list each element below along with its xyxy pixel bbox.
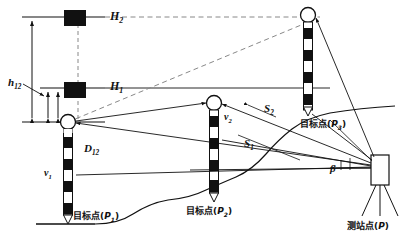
reference-level-lines: [22, 17, 105, 122]
label-v2: v2: [224, 112, 232, 125]
label-beta: β: [330, 163, 336, 174]
target-blocks: [64, 10, 86, 98]
label-H1: H1: [110, 80, 123, 95]
caption-station-point: 测站点(P): [347, 222, 389, 231]
dashed-construction-lines: [68, 17, 330, 122]
label-v1: v1: [44, 168, 52, 181]
caption-leaders: [238, 105, 372, 161]
target-pole-2: [207, 96, 222, 203]
dimension-arrows: [23, 21, 58, 118]
target-pole-3: [301, 8, 316, 117]
caption-target-point-1: 目标点(P1): [73, 212, 119, 223]
figure-canvas: h12 H1 H2 v1 v2 D12 S1 S2 β 目标点(P1) 目标点(…: [0, 0, 420, 248]
label-H2: H2: [110, 10, 123, 25]
label-D12: D12: [84, 143, 99, 157]
target-pole-1: [61, 115, 76, 225]
label-S1: S1: [244, 138, 254, 152]
label-S2: S2: [264, 103, 274, 117]
caption-target-point-3: 目标点(P3): [300, 120, 346, 131]
sight-lines: [76, 18, 374, 175]
caption-target-point-2: 目标点(P2): [186, 207, 232, 218]
label-h12: h12: [8, 77, 21, 91]
